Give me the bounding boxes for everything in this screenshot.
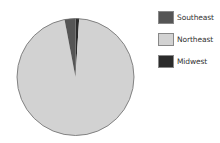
legend-swatch-southeast <box>158 11 174 24</box>
legend: Southeast Northeast Midwest <box>158 10 214 76</box>
legend-label-southeast: Southeast <box>177 13 214 22</box>
pie-chart <box>0 0 150 143</box>
legend-item-northeast: Northeast <box>158 32 214 46</box>
legend-item-midwest: Midwest <box>158 54 214 68</box>
legend-label-midwest: Midwest <box>177 57 207 66</box>
legend-swatch-northeast <box>158 33 174 46</box>
legend-item-southeast: Southeast <box>158 10 214 24</box>
pie-slices <box>17 19 134 136</box>
legend-swatch-midwest <box>158 55 174 68</box>
legend-label-northeast: Northeast <box>177 35 213 44</box>
